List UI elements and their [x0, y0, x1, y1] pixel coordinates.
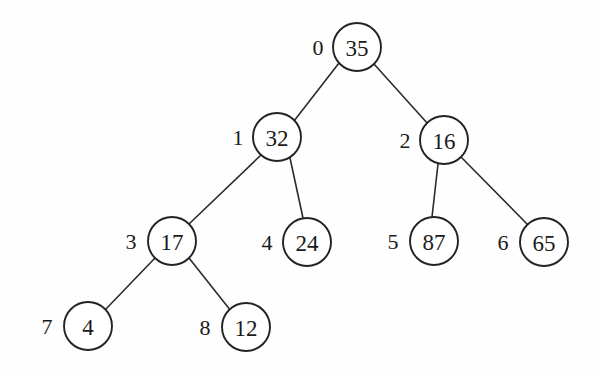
node-value-7: 4 [82, 315, 94, 340]
node-value-0: 35 [346, 36, 369, 61]
node-index-label-2: 2 [400, 128, 411, 153]
binary-tree-diagram: 03513221631742458766574812 [0, 0, 600, 375]
tree-edge-3-7 [105, 258, 155, 310]
tree-edge-1-4 [290, 158, 303, 218]
tree-edge-0-2 [374, 64, 428, 124]
diagram-canvas: 03513221631742458766574812 [0, 0, 600, 375]
tree-node-3[interactable]: 317 [126, 217, 197, 265]
node-index-label-0: 0 [313, 35, 324, 60]
edge-layer [105, 63, 528, 311]
tree-edge-3-8 [189, 258, 231, 311]
tree-node-1[interactable]: 132 [233, 113, 302, 161]
node-value-1: 32 [266, 126, 289, 151]
tree-node-7[interactable]: 74 [42, 302, 113, 350]
tree-node-8[interactable]: 812 [200, 303, 271, 351]
tree-node-5[interactable]: 587 [388, 217, 459, 265]
tree-node-0[interactable]: 035 [313, 23, 382, 71]
tree-node-2[interactable]: 216 [400, 116, 469, 164]
node-value-5: 87 [423, 230, 446, 255]
tree-edge-0-1 [294, 63, 339, 121]
node-index-label-1: 1 [233, 125, 244, 150]
tree-node-4[interactable]: 424 [262, 218, 332, 266]
node-index-label-8: 8 [200, 315, 211, 340]
node-index-label-7: 7 [42, 314, 53, 339]
node-value-3: 17 [161, 230, 184, 255]
node-index-label-3: 3 [126, 229, 137, 254]
node-value-6: 65 [533, 231, 556, 256]
node-index-label-5: 5 [388, 229, 399, 254]
tree-edge-2-5 [432, 164, 438, 217]
node-index-label-6: 6 [498, 230, 509, 255]
node-value-2: 16 [433, 129, 456, 154]
node-value-8: 12 [235, 316, 258, 341]
tree-edge-1-3 [189, 155, 261, 224]
tree-edge-2-6 [461, 157, 528, 225]
node-value-4: 24 [296, 231, 320, 256]
node-layer: 03513221631742458766574812 [42, 23, 569, 351]
node-index-label-4: 4 [262, 230, 273, 255]
tree-node-6[interactable]: 665 [498, 218, 569, 266]
